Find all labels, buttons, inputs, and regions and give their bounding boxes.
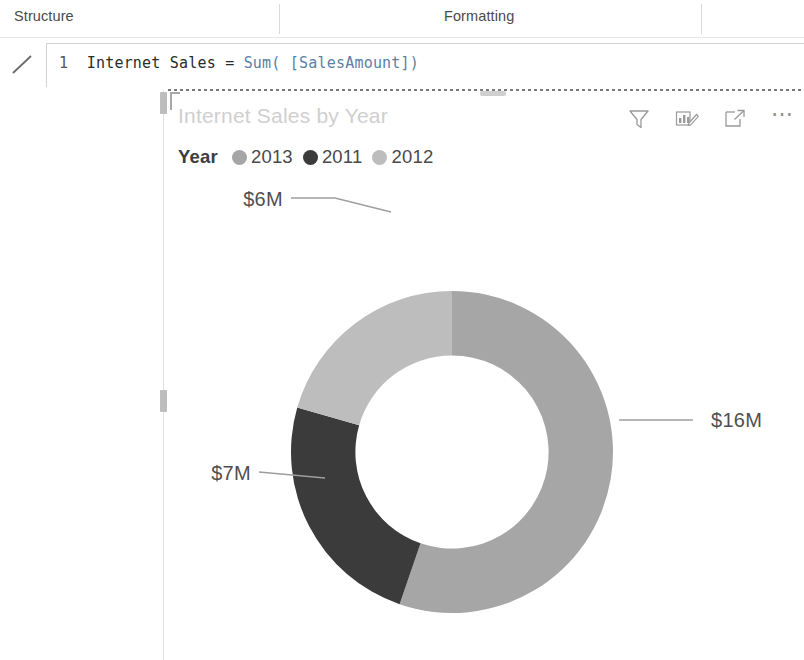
formula-input[interactable]: 1 Internet Sales = Sum( [SalesAmount]) (46, 43, 804, 87)
report-canvas: Internet Sales by Year (0, 90, 804, 660)
data-label-2012: $6M (243, 188, 283, 210)
formula-measure-name: Internet Sales (87, 54, 216, 72)
donut-slices (291, 291, 613, 613)
leader-line-2012 (291, 198, 391, 212)
formula-text: 1 Internet Sales = Sum( [SalesAmount]) (59, 54, 419, 72)
checkmark-icon (9, 53, 37, 77)
ribbon-group-formatting[interactable]: Formatting (444, 8, 514, 24)
ribbon-separator (701, 4, 702, 34)
ribbon-group-structure[interactable]: Structure (14, 8, 74, 24)
donut-slice-2011[interactable] (291, 408, 421, 605)
ribbon-bar: Structure Formatting (0, 0, 804, 38)
ribbon-separator (279, 4, 280, 34)
donut-slice-2012[interactable] (297, 291, 452, 425)
data-label-2013: $16M (711, 409, 762, 431)
ribbon-divider (0, 37, 804, 38)
commit-formula-button[interactable] (0, 40, 46, 88)
data-label-2011: $7M (211, 462, 251, 484)
app-root: Structure Formatting 1 Internet Sales = … (0, 0, 804, 660)
formula-bar: 1 Internet Sales = Sum( [SalesAmount]) (0, 40, 804, 88)
formula-line-number: 1 (59, 54, 68, 72)
donut-chart-svg: $16M$7M$6M (163, 90, 804, 660)
formula-function: Sum( (244, 54, 281, 72)
formula-argument: [SalesAmount]) (281, 54, 419, 72)
formula-equals: = (216, 54, 244, 72)
donut-chart: $16M$7M$6M (163, 90, 804, 660)
